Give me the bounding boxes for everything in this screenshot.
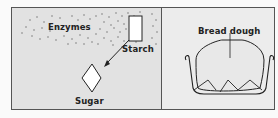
sugar-label: Sugar <box>75 96 104 106</box>
bread-dough-label: Bread dough <box>198 26 260 36</box>
starch-label: Starch <box>122 44 154 54</box>
enzyme-panel: Enzymes Starch Sugar <box>12 8 162 109</box>
diagram-frame: Enzymes Starch Sugar Bread dough <box>11 7 275 110</box>
enzymes-label: Enzymes <box>48 22 91 32</box>
bread-pan-diagram <box>162 8 275 111</box>
bread-dough-panel: Bread dough <box>162 8 274 109</box>
sugar-diamond <box>82 64 101 92</box>
starch-box <box>129 16 142 41</box>
